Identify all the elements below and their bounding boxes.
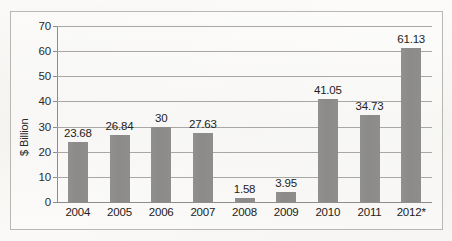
bar-value-label: 61.13 (384, 33, 438, 45)
x-tick-label: 2012* (384, 206, 438, 218)
bar-value-label: 3.95 (259, 177, 313, 189)
x-axis-band: 23.6826.843027.631.583.9541.0534.7361.13… (0, 0, 452, 241)
bar-value-label: 34.73 (343, 100, 397, 112)
chart-page: $ Billion 70 60 50 40 30 20 10 0 2 (0, 0, 452, 241)
bar-value-label: 27.63 (176, 118, 230, 130)
bar-value-label: 41.05 (301, 84, 355, 96)
